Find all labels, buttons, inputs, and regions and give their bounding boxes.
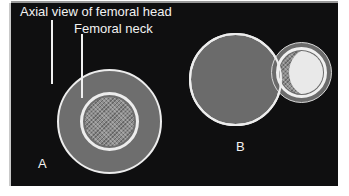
panel-letter-a: A xyxy=(38,157,47,170)
illustration-panel: Axial view of femoral head Femoral neck … xyxy=(11,3,338,186)
leader-line-femoral-neck xyxy=(81,34,83,98)
figure-root: Axial view of femoral head Femoral neck … xyxy=(0,0,349,196)
label-axial-view-of-femoral-head: Axial view of femoral head xyxy=(20,5,172,19)
label-femoral-neck: Femoral neck xyxy=(74,22,153,36)
panel-letter-b: B xyxy=(236,140,245,153)
diagram-b-bright-region xyxy=(289,51,323,94)
diagram-b-trabecular-core xyxy=(280,51,323,94)
leader-line-axial-view xyxy=(51,20,53,84)
diagram-b-large-circle-arc xyxy=(189,33,282,126)
diagram-a-trabecular-core xyxy=(85,97,134,146)
